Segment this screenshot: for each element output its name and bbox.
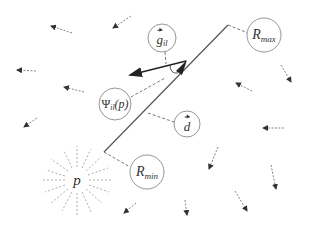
- field-arrow: [51, 26, 72, 33]
- field-arrow: [17, 70, 36, 71]
- field-arrow: [281, 65, 291, 82]
- d-label: d: [184, 120, 191, 133]
- rmax-connector: [228, 25, 248, 33]
- field-arrow: [271, 165, 276, 189]
- field-arrow: [124, 203, 136, 213]
- angle-arc: [170, 65, 178, 73]
- g-vector-symbol: g: [156, 33, 163, 46]
- field-arrow: [185, 200, 187, 215]
- d-connector: [148, 113, 174, 122]
- field-arrow: [113, 16, 131, 28]
- field-arrow: [24, 118, 37, 127]
- gil-label: gil: [156, 33, 167, 48]
- field-arrow: [236, 83, 252, 91]
- p-label: p: [73, 173, 81, 188]
- psi-label: Ψil(p): [101, 98, 128, 112]
- rmax-label: Rmax: [252, 28, 276, 43]
- field-arrow: [209, 147, 218, 169]
- rmin-connector: [104, 152, 130, 167]
- field-arrow: [235, 191, 247, 211]
- field-arrow: [64, 87, 84, 92]
- rmin-label: Rmin: [136, 165, 158, 180]
- d-vector-symbol: d: [184, 120, 191, 133]
- gil-connector: [165, 52, 166, 64]
